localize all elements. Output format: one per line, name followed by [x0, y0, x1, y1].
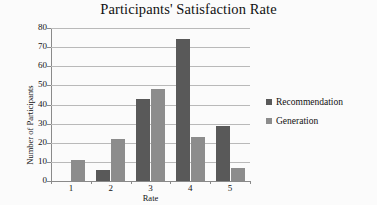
bar-recommendation-3 [136, 99, 150, 181]
chart-legend: Recommendation Generation [266, 94, 374, 132]
chart-container: Participants' Satisfaction Rate 01020304… [0, 0, 377, 205]
bar-generation-3 [151, 89, 165, 181]
bar-generation-1 [71, 160, 85, 181]
gridline [51, 47, 250, 48]
x-axis-title: Rate [51, 193, 250, 203]
y-axis-tick-mark [47, 66, 51, 67]
y-axis-tick-mark [47, 124, 51, 125]
x-axis-tick-mark [210, 181, 211, 184]
x-axis-tick-label: 5 [210, 183, 250, 193]
x-axis-tick-label: 1 [51, 183, 91, 193]
legend-label-recommendation: Recommendation [276, 97, 343, 107]
gridline [51, 85, 250, 86]
y-axis-title: Number of Participants [25, 55, 35, 195]
y-axis-tick-label: 70 [19, 42, 47, 51]
legend-item-generation: Generation [266, 113, 374, 129]
plot-area [51, 28, 250, 181]
legend-item-recommendation: Recommendation [266, 94, 374, 110]
y-axis-tick-mark [47, 162, 51, 163]
x-axis-tick-mark [91, 181, 92, 184]
bar-recommendation-5 [216, 126, 230, 181]
y-axis-tick-mark [47, 28, 51, 29]
y-axis-title-wrapper: Number of Participants [8, 60, 22, 160]
y-axis-tick-mark [47, 143, 51, 144]
bar-generation-5 [231, 168, 245, 181]
y-axis-tick-mark [47, 105, 51, 106]
gridline [51, 181, 250, 182]
x-axis-tick-label: 4 [170, 183, 210, 193]
bar-generation-2 [111, 139, 125, 181]
gridline [51, 28, 250, 29]
legend-swatch-recommendation [266, 99, 272, 105]
y-axis-tick-mark [47, 47, 51, 48]
x-axis-tick-mark [131, 181, 132, 184]
bar-recommendation-4 [176, 39, 190, 181]
y-axis-tick-mark [47, 85, 51, 86]
chart-title: Participants' Satisfaction Rate [0, 1, 377, 18]
bar-generation-4 [191, 137, 205, 181]
x-axis-tick-mark [51, 181, 52, 184]
legend-swatch-generation [266, 118, 272, 124]
x-axis-tick-label: 3 [131, 183, 171, 193]
y-axis-tick-label: 80 [19, 23, 47, 32]
x-axis-tick-mark [170, 181, 171, 184]
bar-recommendation-2 [96, 170, 110, 181]
legend-label-generation: Generation [276, 116, 318, 126]
x-axis-tick-label: 2 [91, 183, 131, 193]
gridline [51, 66, 250, 67]
x-axis-tick-mark [250, 181, 251, 184]
